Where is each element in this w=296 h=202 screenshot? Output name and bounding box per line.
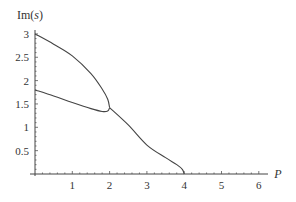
x-tick-label: 1 — [70, 179, 76, 191]
y-axis-label: Im(s) — [17, 8, 43, 22]
x-axis-label: P — [273, 167, 282, 181]
tick-labels: 1234560.511.522.53 — [15, 28, 262, 191]
y-tick-label: 3 — [24, 28, 30, 40]
x-tick-label: 3 — [144, 179, 150, 191]
x-tick-label: 5 — [219, 179, 225, 191]
x-tick-label: 4 — [181, 179, 187, 191]
x-tick-label: 6 — [256, 179, 262, 191]
y-tick-label: 1 — [24, 121, 30, 133]
chart: 1234560.511.522.53 Im(s) P — [0, 0, 296, 202]
y-tick-label: 2.5 — [15, 51, 29, 63]
lower-branch-curve — [35, 90, 110, 112]
y-tick-label: 1.5 — [15, 98, 29, 110]
curves — [35, 34, 184, 174]
upper-branch-curve — [35, 34, 110, 108]
y-tick-label: 2 — [24, 75, 30, 87]
x-tick-label: 2 — [107, 179, 113, 191]
y-tick-label: 0.5 — [15, 145, 29, 157]
ticks — [35, 34, 259, 174]
merged-branch-curve — [110, 108, 185, 174]
